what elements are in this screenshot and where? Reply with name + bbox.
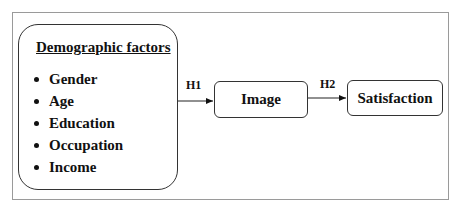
image-node-label: Image bbox=[241, 91, 281, 108]
satisfaction-node: Satisfaction bbox=[347, 80, 443, 116]
edge-label-h1: H1 bbox=[186, 78, 201, 93]
image-node: Image bbox=[214, 81, 308, 118]
satisfaction-node-label: Satisfaction bbox=[358, 90, 433, 107]
edge-label-h2: H2 bbox=[320, 77, 335, 92]
